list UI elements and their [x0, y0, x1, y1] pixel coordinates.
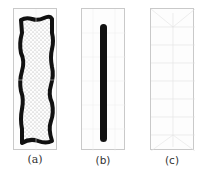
caption-c: (c) — [150, 153, 194, 167]
vertical-bar — [82, 9, 126, 151]
caption-b: (b) — [81, 153, 125, 167]
wavy-border-dotted-region — [14, 9, 58, 151]
faint-mesh — [151, 9, 195, 151]
panel-c — [150, 8, 194, 150]
caption-a: (a) — [13, 153, 57, 167]
panel-a — [13, 8, 57, 150]
panel-b — [81, 8, 125, 150]
